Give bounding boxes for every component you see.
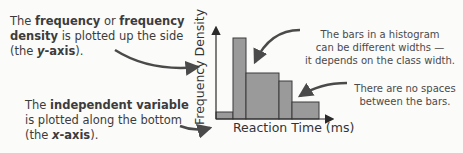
bar-4 [279, 81, 292, 119]
bar-1 [216, 112, 233, 119]
arrow-to-x-axis-icon [180, 126, 210, 130]
arrow-to-wide-bar-icon [255, 30, 300, 62]
y-axis-label: Frequency Density [192, 9, 207, 125]
bar-5 [292, 102, 319, 119]
x-axis-label: Reaction Time (ms) [233, 120, 354, 135]
bar-3 [246, 73, 279, 119]
bar-2 [233, 38, 246, 119]
histogram-graphic [0, 0, 463, 153]
histogram-bars [216, 38, 319, 119]
arrow-to-adjacent-bars-icon [300, 83, 347, 96]
arrow-to-y-axis-icon [115, 50, 198, 68]
